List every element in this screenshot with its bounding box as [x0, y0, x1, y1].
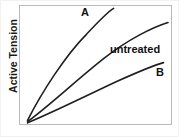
figure-panel: Active Tension A untreated B [0, 0, 179, 137]
curve-b [28, 63, 164, 123]
series-label-untreated: untreated [110, 44, 160, 55]
series-label-b: B [156, 67, 164, 78]
plot-area [19, 5, 172, 125]
curve-untreated [28, 23, 168, 122]
y-axis-label: Active Tension [7, 6, 19, 106]
curves-svg [20, 6, 171, 124]
series-label-a: A [81, 7, 89, 18]
